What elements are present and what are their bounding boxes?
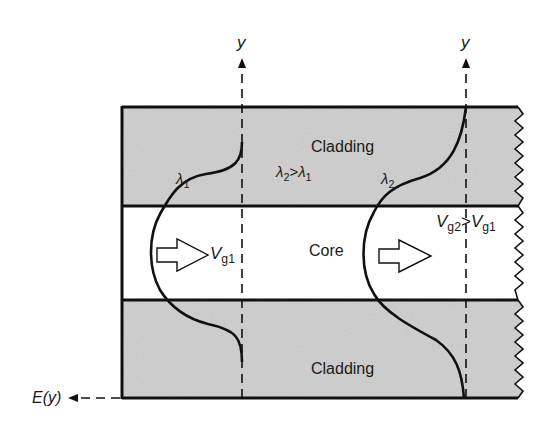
rhs-subscript: g1 <box>482 220 496 234</box>
operator: > <box>289 163 298 180</box>
field-axis-label: E(y) <box>32 390 61 406</box>
cladding-top-label: Cladding <box>311 139 374 155</box>
group-velocity-1-label: Vg1 <box>210 245 235 262</box>
e-axis-arrow-icon <box>68 394 78 402</box>
y-axis-1-label: y <box>237 34 246 51</box>
wavelength-relation: λ2>λ1 <box>276 164 312 179</box>
mode-2-wavelength-label: λ2 <box>381 171 394 186</box>
operator: > <box>461 212 471 231</box>
lhs-symbol: V <box>436 212 447 231</box>
rhs-symbol: λ <box>298 163 305 180</box>
rhs-subscript: 1 <box>306 171 312 183</box>
y-axis-1-arrow-icon <box>238 58 246 68</box>
waveguide-diagram: y y Cladding Core Cladding λ1 λ2 λ2>λ1 V… <box>0 0 557 428</box>
y-axis-2-label: y <box>461 34 470 51</box>
velocity-subscript: g1 <box>221 252 235 266</box>
lhs-subscript: g2 <box>447 220 461 234</box>
lhs-subscript: 2 <box>283 171 289 183</box>
rhs-symbol: V <box>471 212 482 231</box>
lambda-subscript: 2 <box>388 178 394 190</box>
core-label: Core <box>309 243 344 259</box>
velocity-symbol: V <box>210 244 221 263</box>
mode-1-wavelength-label: λ1 <box>176 171 189 186</box>
cladding-bottom-label: Cladding <box>311 361 374 377</box>
y-axis-2-arrow-icon <box>462 58 470 68</box>
lambda-subscript: 1 <box>183 178 189 190</box>
velocity-relation: Vg2>Vg1 <box>436 213 496 230</box>
